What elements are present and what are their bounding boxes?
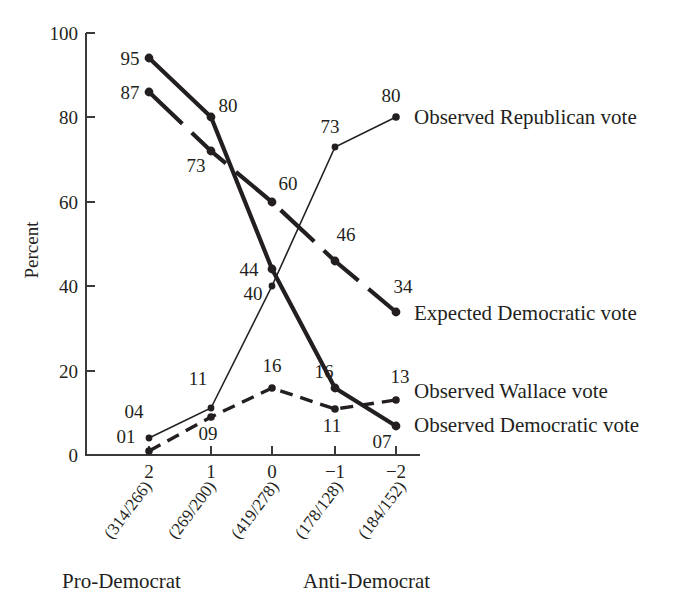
xtick-label-1: 1 bbox=[206, 461, 216, 482]
datalabel-wal-3: 11 bbox=[323, 415, 341, 436]
ytick-label-100: 100 bbox=[50, 23, 79, 44]
datalabel-wal-4: 13 bbox=[391, 366, 410, 387]
datapoint-demobs-1 bbox=[207, 113, 216, 122]
series-label-observed-democratic: Observed Democratic vote bbox=[414, 413, 639, 437]
datalabel-rep-4: 80 bbox=[382, 85, 401, 106]
datapoint-demexp-3 bbox=[331, 257, 340, 266]
series-label-observed-republican: Observed Republican vote bbox=[414, 105, 637, 129]
datapoint-demexp-0 bbox=[145, 88, 154, 97]
datalabel-demobs-1: 80 bbox=[219, 95, 238, 116]
datalabel-demobs-3: 16 bbox=[315, 361, 334, 382]
datalabel-rep-0: 04 bbox=[125, 401, 145, 422]
ytick-label-0: 0 bbox=[69, 445, 79, 466]
datapoint-wal-1 bbox=[207, 413, 215, 421]
datalabel-demexp-2: 60 bbox=[279, 173, 298, 194]
group-label-pro-democrat: Pro-Democrat bbox=[62, 569, 181, 593]
datalabel-wal-2: 16 bbox=[263, 355, 282, 376]
chart-figure: 100 80 60 40 20 0 Percent 2 1 0 −1 −2 (3… bbox=[0, 0, 675, 605]
datalabel-rep-3: 73 bbox=[321, 116, 340, 137]
datalabel-rep-1: 11 bbox=[189, 368, 207, 389]
datapoint-wal-3 bbox=[331, 405, 339, 413]
chart-svg: 100 80 60 40 20 0 Percent 2 1 0 −1 −2 (3… bbox=[0, 0, 675, 605]
datapoint-rep-0 bbox=[146, 435, 153, 442]
ytick-label-20: 20 bbox=[59, 361, 78, 382]
series-label-expected-democratic: Expected Democratic vote bbox=[414, 301, 637, 325]
datalabel-demexp-3: 46 bbox=[337, 224, 356, 245]
datapoint-wal-4 bbox=[392, 396, 400, 404]
datalabel-rep-2: 40 bbox=[244, 283, 263, 304]
datalabel-demobs-0: 95 bbox=[121, 48, 140, 69]
datapoint-wal-2 bbox=[268, 384, 276, 392]
datalabel-demexp-0: 87 bbox=[121, 82, 140, 103]
datapoint-demexp-2 bbox=[268, 198, 277, 207]
datapoint-demexp-1 bbox=[207, 147, 216, 156]
datapoint-wal-0 bbox=[145, 447, 153, 455]
datalabel-demexp-4: 34 bbox=[394, 276, 414, 297]
datalabel-demobs-4: 07 bbox=[373, 431, 392, 452]
datapoint-rep-4 bbox=[392, 113, 400, 121]
datapoint-demobs-3 bbox=[331, 384, 340, 393]
datalabel-demexp-1: 73 bbox=[187, 155, 206, 176]
datapoint-demobs-2 bbox=[268, 265, 277, 274]
datalabel-demobs-2: 44 bbox=[240, 259, 260, 280]
datapoint-rep-3 bbox=[332, 144, 339, 151]
xtick-label-2: 2 bbox=[144, 461, 154, 482]
datapoint-rep-2 bbox=[269, 283, 276, 290]
xtick-label-minus1: −1 bbox=[325, 461, 345, 482]
datalabel-wal-0: 01 bbox=[117, 426, 136, 447]
y-axis-title: Percent bbox=[21, 221, 42, 279]
ytick-label-80: 80 bbox=[59, 107, 78, 128]
datalabel-wal-1: 09 bbox=[199, 423, 218, 444]
ytick-label-60: 60 bbox=[59, 192, 78, 213]
datapoint-demobs-4 bbox=[392, 422, 401, 431]
datapoint-demexp-4 bbox=[392, 308, 401, 317]
datapoint-demobs-0 bbox=[145, 54, 154, 63]
ytick-label-40: 40 bbox=[59, 276, 78, 297]
group-label-anti-democrat: Anti-Democrat bbox=[303, 569, 430, 593]
series-label-observed-wallace: Observed Wallace vote bbox=[414, 379, 608, 403]
datapoint-rep-1 bbox=[208, 405, 215, 412]
